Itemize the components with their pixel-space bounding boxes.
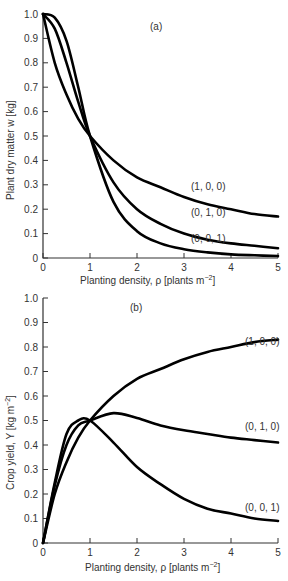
panel-b-y-axis-title: Crop yield, Y [kg m−2]	[4, 395, 16, 490]
panel-b-x-ticks: 012345	[40, 538, 281, 558]
series-curve-2	[43, 413, 278, 543]
panel-a-x-axis-title: Planting density, ρ [plants m−2]	[80, 274, 215, 286]
y-tick-label: 0.1	[24, 513, 38, 524]
series-curve-1	[43, 340, 278, 543]
panel-a-y-axis-title: Plant dry matter w [kg]	[5, 100, 16, 200]
x-tick-label: 3	[181, 262, 187, 273]
y-tick-label: 0.3	[24, 179, 38, 190]
x-tick-label: 0	[40, 547, 46, 558]
y-tick-label: 0.5	[24, 131, 38, 142]
y-tick-label: 0.7	[24, 82, 38, 93]
y-tick-label: 0.9	[24, 33, 38, 44]
panel-a-plant-dry-matter: 00.10.20.30.40.50.60.70.80.91.0 012345 (…	[5, 9, 281, 287]
y-tick-label: 0.6	[24, 391, 38, 402]
panel-a-curves	[43, 14, 278, 256]
x-tick-label: 5	[275, 547, 281, 558]
panel-a-axes	[43, 14, 278, 258]
x-tick-label: 4	[228, 262, 234, 273]
x-tick-label: 2	[134, 547, 140, 558]
panel-a-y-ticks: 00.10.20.30.40.50.60.70.80.91.0	[24, 9, 48, 264]
x-tick-label: 1	[87, 547, 93, 558]
y-tick-label: 0.7	[24, 366, 38, 377]
y-tick-label: 0.5	[24, 415, 38, 426]
y-tick-label: 0.4	[24, 440, 38, 451]
y-tick-label: 0.3	[24, 464, 38, 475]
figure: 00.10.20.30.40.50.60.70.80.91.0 012345 (…	[0, 0, 288, 581]
y-tick-label: 1.0	[24, 9, 38, 20]
panel-b-series-label-1: (1, 0, 0)	[245, 336, 279, 347]
y-tick-label: 0.8	[24, 342, 38, 353]
y-tick-label: 0.4	[24, 155, 38, 166]
series-curve-1	[43, 14, 278, 217]
panel-b-series-label-3: (0, 0, 1)	[245, 502, 279, 513]
panel-b-y-ticks: 00.10.20.30.40.50.60.70.80.91.0	[24, 293, 48, 549]
panel-a-series-label-2: (0, 1, 0)	[191, 207, 225, 218]
y-tick-label: 0.9	[24, 317, 38, 328]
x-tick-label: 5	[275, 262, 281, 273]
panel-a-series-label-1: (1, 0, 0)	[191, 181, 225, 192]
panel-b-crop-yield: 00.10.20.30.40.50.60.70.80.91.0 012345 (…	[4, 293, 281, 574]
x-tick-label: 2	[134, 262, 140, 273]
y-tick-label: 0.8	[24, 57, 38, 68]
y-tick-label: 1.0	[24, 293, 38, 304]
y-tick-label: 0.2	[24, 489, 38, 500]
panel-b-x-axis-title: Planting density, ρ [plants m−2]	[85, 561, 220, 573]
y-tick-label: 0.1	[24, 228, 38, 239]
series-curve-3	[43, 14, 278, 256]
panel-a-label: (a)	[150, 21, 162, 32]
panel-b-series-label-2: (0, 1, 0)	[245, 421, 279, 432]
x-tick-label: 0	[40, 262, 46, 273]
y-tick-label: 0.6	[24, 106, 38, 117]
panel-b-curves	[43, 340, 278, 543]
x-tick-label: 3	[181, 547, 187, 558]
panel-a-series-label-3: (0, 0, 1)	[191, 233, 225, 244]
x-tick-label: 4	[228, 547, 234, 558]
panel-b-label: (b)	[130, 302, 142, 313]
y-tick-label: 0.2	[24, 204, 38, 215]
x-tick-label: 1	[87, 262, 93, 273]
y-tick-label: 0	[32, 538, 38, 549]
y-tick-label: 0	[32, 253, 38, 264]
